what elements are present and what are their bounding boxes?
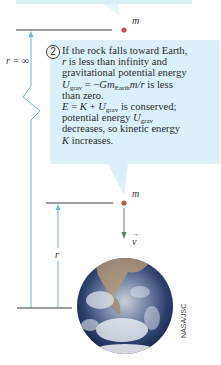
earth-image [77, 257, 173, 356]
mass-top [121, 27, 126, 32]
r-infinity-label: r = ∞ [6, 54, 29, 67]
axis-break-zigzag [23, 75, 40, 128]
callout-text: If the rock falls toward Earth, r is les… [62, 45, 220, 146]
mass-bottom [121, 200, 126, 205]
r-label: r [55, 248, 59, 261]
mass-label-bottom: m [132, 188, 139, 199]
mass-label-top: m [132, 15, 139, 26]
velocity-label: v→ [132, 236, 136, 247]
callout-pointer [108, 164, 128, 195]
image-credit: NASA/JSC [180, 304, 187, 338]
step-number-badge: 2 [46, 45, 60, 59]
